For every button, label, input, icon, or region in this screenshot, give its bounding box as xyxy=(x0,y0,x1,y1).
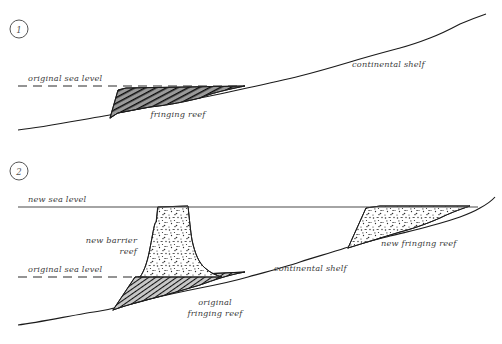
panel-1-number: 1 xyxy=(16,25,21,35)
panel-2-new-sea-level-label: new sea level xyxy=(28,194,87,204)
panel-1-continental-shelf-label: continental shelf xyxy=(352,59,427,69)
reef-formation-diagram: 1 original sea level fringing reef conti… xyxy=(0,0,502,344)
panel-1-seabed-profile xyxy=(18,14,486,130)
panel-1: 1 original sea level fringing reef conti… xyxy=(10,14,486,130)
panel-2-original-sea-level-label: original sea level xyxy=(28,264,103,274)
panel-2-number: 2 xyxy=(15,167,21,177)
panel-2-new-barrier-reef-label-line1: new barrier xyxy=(86,235,138,245)
panel-2-continental-shelf-label: continental shelf xyxy=(274,263,349,273)
diagram-canvas: 1 original sea level fringing reef conti… xyxy=(0,0,502,344)
panel-2-new-barrier-reef xyxy=(140,206,222,277)
panel-2-original-fringing-reef-label-line2: fringing reef xyxy=(186,308,244,318)
panel-2-new-barrier-reef-label-line2: reef xyxy=(120,246,139,256)
panel-2-number-badge: 2 xyxy=(10,162,28,180)
panel-1-number-badge: 1 xyxy=(10,20,28,38)
panel-1-fringing-reef-label: fringing reef xyxy=(149,109,207,119)
panel-2-original-fringing-reef-label-line1: original xyxy=(198,297,232,307)
panel-2-new-fringing-reef-label: new fringing reef xyxy=(381,238,458,248)
panel-1-original-sea-level-label: original sea level xyxy=(28,73,103,83)
panel-2: 2 new sea level original sea level new b… xyxy=(10,162,495,325)
